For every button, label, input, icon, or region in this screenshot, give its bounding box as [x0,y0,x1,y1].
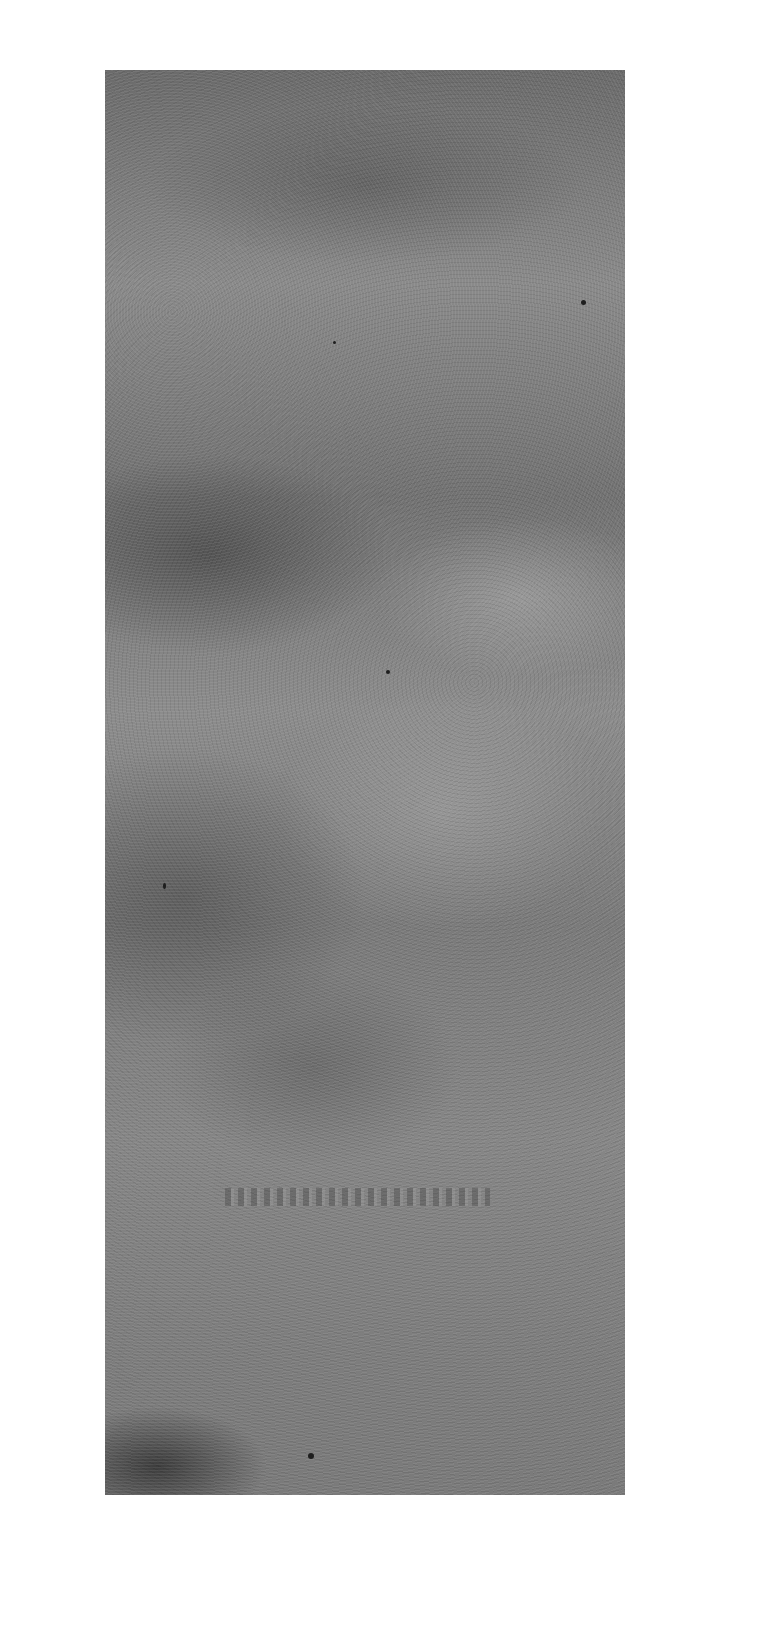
embossed-mark [225,1188,490,1206]
grain-texture [105,70,625,1495]
dark-speck [163,883,166,889]
textured-gray-panel [105,70,625,1495]
dark-speck [308,1453,314,1459]
dark-speck [581,300,586,305]
dark-speck [386,670,390,674]
dark-speck [333,341,336,344]
